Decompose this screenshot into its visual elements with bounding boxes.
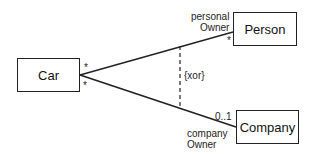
car-company-association-line — [80, 75, 236, 127]
company-end-multiplicity: 0..1 — [215, 112, 232, 122]
car-class-box[interactable]: Car — [17, 58, 80, 92]
company-owner-role-label: company Owner — [187, 128, 228, 150]
person-class-box[interactable]: Person — [233, 12, 297, 46]
car-class-name: Car — [38, 68, 59, 83]
xor-constraint-label: {xor} — [184, 70, 205, 81]
company-class-box[interactable]: Company — [236, 110, 299, 144]
personal-owner-role-label: personal Owner — [191, 11, 229, 33]
person-class-name: Person — [244, 22, 285, 37]
car-person-association-line — [80, 32, 233, 75]
car-person-multiplicity: * — [84, 63, 88, 73]
car-company-multiplicity: * — [83, 81, 87, 91]
person-end-multiplicity: * — [227, 36, 231, 46]
company-class-name: Company — [240, 120, 296, 135]
